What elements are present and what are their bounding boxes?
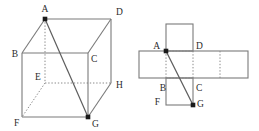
net-diagram-svg: A D B C F G	[130, 0, 259, 131]
net-label-A: A	[153, 41, 160, 51]
cube-vertex-labels: A B C D E F G H	[12, 4, 123, 129]
net-diagram-panel: A D B C F G	[130, 0, 259, 131]
cube-label-D: D	[116, 7, 123, 17]
net-label-G: G	[197, 99, 204, 109]
cube-vertex-dot-G	[86, 115, 91, 120]
cube-path-A-G	[45, 19, 88, 117]
cube-label-G: G	[92, 119, 99, 129]
cube-edge-C-D	[88, 19, 111, 53]
cube-path-edges	[45, 19, 88, 117]
net-top-square	[166, 24, 193, 51]
net-vertex-dot-A	[164, 49, 169, 54]
cube-diagram-panel: A B C D E F G H	[0, 0, 130, 131]
net-bottom-square	[166, 78, 193, 105]
cube-label-C: C	[91, 54, 97, 64]
net-label-C: C	[196, 83, 202, 93]
cube-label-A: A	[42, 4, 49, 14]
cube-edge-E-F	[22, 83, 45, 117]
cube-diagram-svg: A B C D E F G H	[0, 0, 130, 131]
cube-label-E: E	[35, 72, 41, 82]
net-label-B: B	[160, 83, 166, 93]
net-fold-lines	[166, 51, 220, 78]
cube-edge-A-B	[22, 19, 45, 53]
net-vertex-dot-G	[191, 103, 196, 108]
cube-label-H: H	[116, 80, 123, 90]
cube-vertex-dot-A	[43, 17, 48, 22]
net-label-F: F	[155, 97, 160, 107]
figure-root: A B C D E F G H	[0, 0, 259, 131]
cube-label-B: B	[12, 49, 18, 59]
cube-label-F: F	[14, 118, 19, 128]
net-label-D: D	[196, 41, 203, 51]
cube-edge-G-H	[88, 83, 111, 117]
